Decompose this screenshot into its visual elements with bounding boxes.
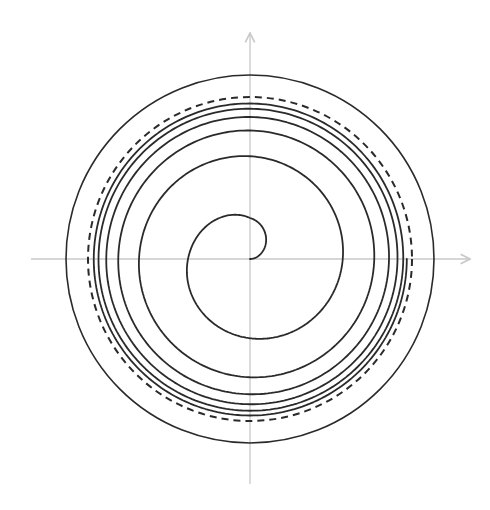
phase-portrait-diagram (0, 0, 490, 510)
